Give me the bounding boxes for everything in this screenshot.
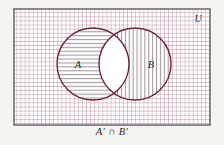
set-b-hatch-region bbox=[92, 24, 178, 106]
venn-diagram-figure: U A B bbox=[0, 0, 224, 145]
figure-caption: A′ ∩ B′ bbox=[0, 126, 224, 137]
set-a-label: A bbox=[74, 59, 82, 70]
set-b-label: B bbox=[148, 59, 155, 70]
universal-set-label: U bbox=[194, 13, 202, 24]
